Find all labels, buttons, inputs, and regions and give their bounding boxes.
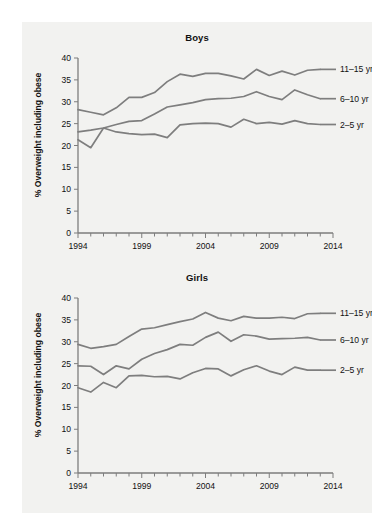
series-label-2: 6–10 yr bbox=[340, 335, 369, 345]
data-line-2 bbox=[78, 90, 320, 132]
series-label-3: 2–5 yr bbox=[340, 365, 364, 375]
x-tick-label: 2004 bbox=[196, 481, 215, 491]
y-tick-label: 25 bbox=[61, 359, 71, 369]
series-label-1: 11–15 yr bbox=[340, 308, 372, 318]
y-tick-label: 10 bbox=[61, 424, 71, 434]
plot-area-boys: 05101520253035401994199920042009201411–1… bbox=[22, 26, 372, 266]
y-tick-label: 35 bbox=[61, 315, 71, 325]
series-label-2: 6–10 yr bbox=[340, 94, 369, 104]
y-tick-label: 15 bbox=[61, 402, 71, 412]
data-line-3 bbox=[78, 119, 320, 147]
y-tick-label: 5 bbox=[66, 206, 71, 216]
plot-area-girls: 05101520253035401994199920042009201411–1… bbox=[22, 266, 372, 506]
data-line-3 bbox=[78, 366, 320, 392]
data-line-1 bbox=[78, 312, 320, 348]
figure-root: Boys % Overweight including obese 051015… bbox=[0, 0, 388, 527]
chart-panel: Boys % Overweight including obese 051015… bbox=[22, 22, 372, 513]
y-tick-label: 0 bbox=[66, 228, 71, 238]
y-tick-label: 10 bbox=[61, 184, 71, 194]
series-label-3: 2–5 yr bbox=[340, 120, 364, 130]
y-tick-label: 20 bbox=[61, 141, 71, 151]
x-tick-label: 2009 bbox=[260, 241, 279, 251]
x-tick-label: 2009 bbox=[260, 481, 279, 491]
x-tick-label: 1994 bbox=[68, 481, 87, 491]
x-tick-label: 1999 bbox=[132, 241, 151, 251]
y-tick-label: 25 bbox=[61, 119, 71, 129]
chart-boys: Boys % Overweight including obese 051015… bbox=[22, 26, 372, 266]
y-tick-label: 30 bbox=[61, 337, 71, 347]
y-tick-label: 5 bbox=[66, 446, 71, 456]
chart-girls: Girls % Overweight including obese 05101… bbox=[22, 266, 372, 506]
y-tick-label: 15 bbox=[61, 162, 71, 172]
series-label-1: 11–15 yr bbox=[340, 64, 372, 74]
x-tick-label: 2014 bbox=[323, 481, 342, 491]
y-tick-label: 40 bbox=[61, 53, 71, 63]
x-tick-label: 1994 bbox=[68, 241, 87, 251]
x-tick-label: 2004 bbox=[196, 241, 215, 251]
data-line-2 bbox=[78, 332, 320, 374]
y-tick-label: 40 bbox=[61, 293, 71, 303]
y-tick-label: 0 bbox=[66, 468, 71, 478]
x-tick-label: 2014 bbox=[323, 241, 342, 251]
y-tick-label: 20 bbox=[61, 381, 71, 391]
y-tick-label: 30 bbox=[61, 97, 71, 107]
y-tick-label: 35 bbox=[61, 75, 71, 85]
x-tick-label: 1999 bbox=[132, 481, 151, 491]
data-line-1 bbox=[78, 69, 320, 114]
